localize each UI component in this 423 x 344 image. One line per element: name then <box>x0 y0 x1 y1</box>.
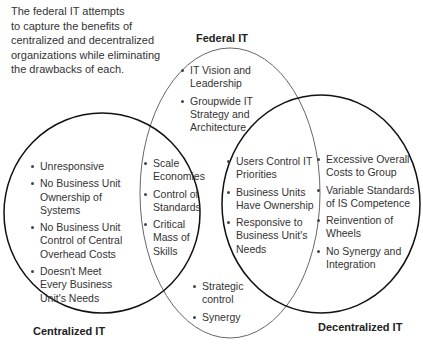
centralized-it-title: Centralized IT <box>33 325 105 337</box>
list-item: Users Control IT Priorities <box>226 155 316 182</box>
list-item: Scale Economies <box>143 157 213 184</box>
list-item: No Synergy and Integration <box>316 245 416 272</box>
list-item: Excessive Overall Costs to Group <box>316 153 416 180</box>
list-item: Control of Standards <box>143 188 213 215</box>
list-item: No Business Unit Ownership of Systems <box>30 177 130 217</box>
list-item: Synergy <box>192 311 252 324</box>
list-item: Critical Mass of Skills <box>143 218 213 258</box>
decentralized-only-list: Excessive Overall Costs to Group Variabl… <box>316 153 416 275</box>
caption-line: The federal IT attempts <box>11 4 231 19</box>
list-item: Variable Standards of IS Competence <box>316 184 416 211</box>
list-item: IT Vision and Leadership <box>180 64 290 91</box>
centralized-only-list: Unresponsive No Business Unit Ownership … <box>30 160 130 309</box>
centralized-federal-list: Scale Economies Control of Standards Cri… <box>143 157 213 262</box>
list-item: Responsive to Business Unit's Needs <box>226 216 316 256</box>
decentralized-federal-list: Users Control IT Priorities Business Uni… <box>226 155 316 260</box>
federal-bottom-list: Strategic control Synergy <box>192 280 252 328</box>
list-item: Unresponsive <box>30 160 130 173</box>
caption-line: organizations while eliminating <box>11 48 231 63</box>
caption-line: to capture the benefits of <box>11 19 231 34</box>
list-item: Strategic control <box>192 280 252 307</box>
list-item: Business Units Have Ownership <box>226 186 316 213</box>
list-item: Doesn't Meet Every Business Unit's Needs <box>30 265 130 305</box>
list-item: Reinvention of Wheels <box>316 214 416 241</box>
list-item: No Business Unit Control of Central Over… <box>30 221 130 261</box>
federal-only-list: IT Vision and Leadership Groupwide IT St… <box>180 64 290 138</box>
decentralized-it-title: Decentralized IT <box>318 321 402 333</box>
federal-it-title: Federal IT <box>196 32 248 44</box>
list-item: Groupwide IT Strategy and Architecture <box>180 95 290 135</box>
